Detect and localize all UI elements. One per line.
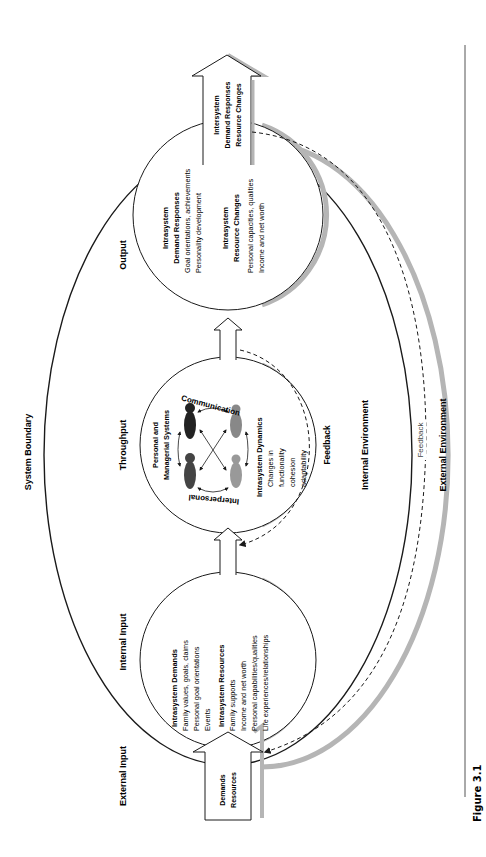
svg-text:Resource Changes: Resource Changes — [235, 83, 243, 147]
svg-text:Personal goal orientations: Personal goal orientations — [192, 646, 201, 731]
svg-text:Intrasystem Dynamics: Intrasystem Dynamics — [255, 417, 264, 497]
svg-text:Family supports: Family supports — [228, 679, 237, 731]
svg-text:Personality development: Personality development — [194, 193, 203, 273]
internal-environment-label: Internal Environment — [360, 400, 370, 490]
svg-text:functionality: functionality — [277, 448, 286, 487]
svg-text:Goal orientations, achievement: Goal orientations, achievements — [183, 168, 192, 273]
svg-text:Personal capacities, qualities: Personal capacities, qualities — [246, 179, 255, 273]
svg-text:Managerial Systems: Managerial Systems — [162, 410, 171, 480]
svg-text:adaptability: adaptability — [299, 450, 308, 487]
svg-text:Personal capabilities/qualitie: Personal capabilities/qualities — [250, 635, 259, 731]
svg-text:Events: Events — [203, 708, 212, 731]
intrasystem-demands-title: Intrasystem Demands — [170, 649, 179, 727]
svg-text:Demands: Demands — [219, 774, 226, 806]
svg-text:Intersystem: Intersystem — [213, 95, 221, 134]
internal-input-label: Internal Input — [118, 614, 128, 671]
person-icon — [230, 455, 242, 489]
intrasystem-resources-title: Intrasystem Resources — [217, 644, 226, 727]
figure-caption: Figure 3.1 — [472, 765, 483, 822]
inner-feedback-label: Feedback — [322, 425, 332, 464]
svg-text:Personal and: Personal and — [151, 422, 160, 468]
svg-text:Changes in: Changes in — [266, 450, 275, 487]
svg-text:cohesion: cohesion — [288, 458, 297, 487]
svg-text:Income and net worth: Income and net worth — [257, 203, 266, 273]
svg-text:Resource Changes: Resource Changes — [232, 194, 241, 262]
svg-text:Demand Responses: Demand Responses — [172, 192, 181, 264]
input-to-throughput-arrow — [214, 528, 242, 575]
svg-text:Demand Responses: Demand Responses — [224, 81, 232, 148]
external-environment-label: External Environment — [438, 398, 448, 491]
svg-text:Intrasystem: Intrasystem — [221, 207, 230, 249]
figure-3-1-family-system-diagram: System Boundary External Input Internal … — [0, 0, 486, 857]
output-label: Output — [118, 240, 128, 270]
person-icon — [184, 453, 196, 489]
throughput-to-output-arrow — [214, 318, 242, 360]
svg-text:Income and net worth: Income and net worth — [239, 661, 248, 731]
svg-text:Life experiences/relationships: Life experiences/relationships — [261, 635, 270, 731]
person-icon — [184, 403, 196, 439]
throughput-label: Throughput — [118, 420, 128, 470]
svg-text:Intrasystem: Intrasystem — [161, 207, 170, 249]
system-boundary-label: System Boundary — [23, 414, 33, 491]
input-circle-text: Intrasystem Demands Family values, goals… — [170, 635, 270, 731]
svg-text:Resources: Resources — [230, 772, 237, 808]
outer-feedback-label: Feedback — [416, 421, 425, 457]
external-input-label: External Input — [118, 746, 128, 806]
svg-text:Family values, goals, claims: Family values, goals, claims — [181, 640, 190, 731]
